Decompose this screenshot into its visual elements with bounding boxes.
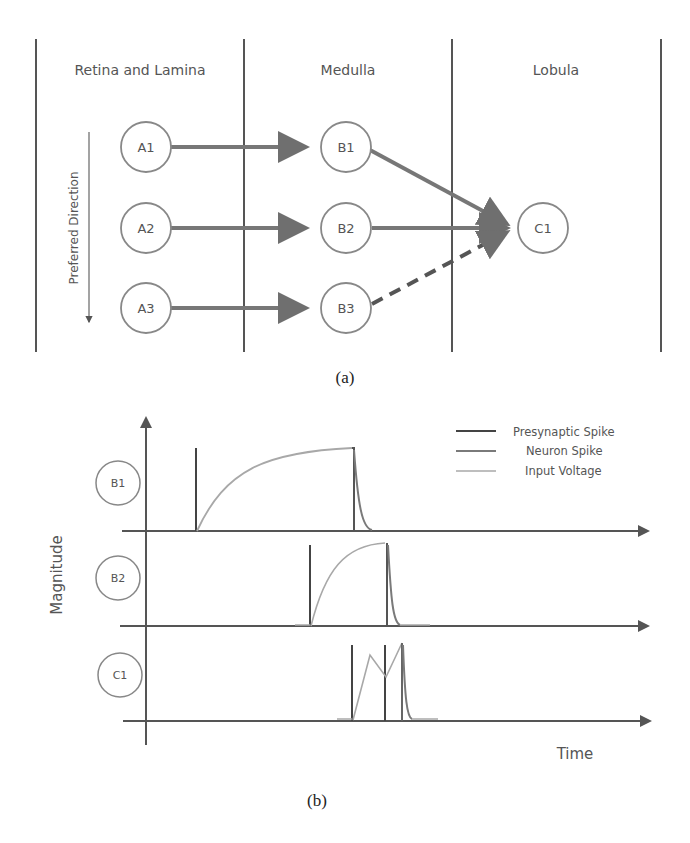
caption-a: (a) — [336, 368, 355, 387]
figure: Retina and Lamina Medulla Lobula Preferr… — [0, 0, 690, 843]
svg-text:B1: B1 — [111, 477, 126, 490]
edge-b1-c1 — [370, 150, 507, 224]
input-voltage — [311, 543, 385, 626]
svg-text:B1: B1 — [337, 140, 354, 155]
svg-text:A2: A2 — [137, 221, 154, 236]
neuron-spike — [403, 645, 412, 719]
y-axis-label: Magnitude — [48, 535, 66, 614]
row-label-b2: B2 — [96, 556, 140, 600]
node-b3: B3 — [321, 283, 371, 333]
direction-label: Preferred Direction — [67, 171, 81, 284]
svg-text:A3: A3 — [137, 301, 154, 316]
svg-text:A1: A1 — [137, 140, 154, 155]
column-header-retina: Retina and Lamina — [74, 62, 205, 78]
svg-text:B3: B3 — [337, 301, 354, 316]
node-b2: B2 — [321, 203, 371, 253]
legend-label-input: Input Voltage — [525, 464, 602, 478]
input-voltage — [353, 643, 402, 720]
trace-c1 — [337, 643, 438, 721]
node-a2: A2 — [121, 203, 171, 253]
row-label-c1: C1 — [98, 653, 142, 697]
node-c1: C1 — [518, 203, 568, 253]
panel-b: Magnitude Time B1 B2 C1 — [48, 418, 650, 810]
neuron-spike — [388, 545, 400, 625]
panel-a: Retina and Lamina Medulla Lobula Preferr… — [36, 39, 661, 387]
trace-b2 — [295, 543, 430, 626]
x-axis-label: Time — [556, 745, 594, 763]
row-label-b1: B1 — [96, 461, 140, 505]
node-a1: A1 — [121, 122, 171, 172]
caption-b: (b) — [307, 791, 327, 810]
input-voltage — [197, 448, 352, 531]
column-header-lobula: Lobula — [533, 62, 579, 78]
svg-text:B2: B2 — [111, 572, 126, 585]
edge-b3-c1-dashed — [372, 232, 507, 304]
trace-b1 — [196, 448, 372, 531]
node-a3: A3 — [121, 283, 171, 333]
svg-text:B2: B2 — [337, 221, 354, 236]
svg-text:C1: C1 — [534, 221, 551, 236]
neuron-spike — [354, 450, 372, 530]
svg-text:C1: C1 — [113, 669, 128, 682]
legend-label-neuron: Neuron Spike — [526, 444, 603, 458]
column-header-medulla: Medulla — [321, 62, 376, 78]
legend: Presynaptic Spike Neuron Spike Input Vol… — [456, 425, 615, 478]
node-b1: B1 — [321, 122, 371, 172]
legend-label-presynaptic: Presynaptic Spike — [513, 425, 615, 439]
